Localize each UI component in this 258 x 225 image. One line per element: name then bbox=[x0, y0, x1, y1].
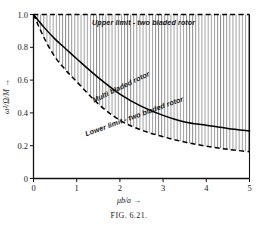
y-tick-label: 1.0 bbox=[17, 10, 28, 20]
figure-caption: FIG. 6.21. bbox=[111, 211, 148, 220]
chart-canvas: 00.20.40.60.81.0 012345 Upper limit - tw… bbox=[0, 0, 258, 225]
x-tick-label: 0 bbox=[31, 183, 35, 193]
x-tick-label: 2 bbox=[118, 183, 122, 193]
y-tick-label: 0.2 bbox=[17, 141, 28, 151]
figure-container: 00.20.40.60.81.0 012345 Upper limit - tw… bbox=[0, 0, 258, 225]
y-tick-label: 0.4 bbox=[17, 108, 28, 118]
x-tick-label: 3 bbox=[161, 183, 165, 193]
hatch-band-region bbox=[34, 15, 250, 152]
x-tick-label: 4 bbox=[204, 183, 209, 193]
y-axis-ticks: 00.20.40.60.81.0 bbox=[17, 10, 33, 184]
y-tick-label: 0 bbox=[24, 174, 28, 184]
y-tick-label: 0.8 bbox=[17, 42, 28, 52]
annotation-upper-limit: Upper limit - two bladed rotor bbox=[92, 18, 196, 27]
x-tick-label: 5 bbox=[247, 183, 251, 193]
x-tick-label: 1 bbox=[75, 183, 79, 193]
y-tick-label: 0.6 bbox=[17, 75, 28, 85]
y-axis-title: ω²/Ω/M → bbox=[2, 79, 11, 114]
x-axis-ticks: 012345 bbox=[31, 179, 251, 194]
x-axis-title: μb/a → bbox=[116, 196, 141, 205]
